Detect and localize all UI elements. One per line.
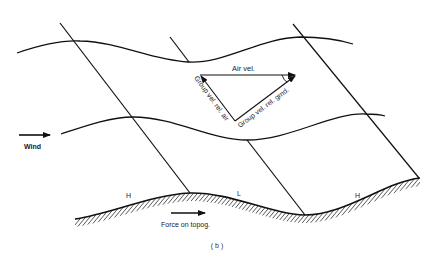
group-vel-rel-ground-vector xyxy=(235,76,295,121)
upper-streamline xyxy=(17,37,353,62)
group-vel-rel-ground-label: Group vel. rel. grnd. xyxy=(236,86,290,130)
phase-line-3 xyxy=(293,24,419,178)
mountain-wave-diagram: Air vel. Group vel. rel. air Group vel. … xyxy=(0,0,436,266)
group-vel-rel-air-label: Group vel. rel. air xyxy=(192,74,230,123)
air-velocity-label: Air vel. xyxy=(232,64,255,73)
phase-line-2-upper xyxy=(170,37,189,62)
group-vel-rel-air-vector xyxy=(201,76,235,121)
high-label-right: H xyxy=(355,192,360,199)
wind-label: Wind xyxy=(24,143,41,150)
angle-arc xyxy=(282,75,287,82)
low-label-middle: L xyxy=(237,190,241,197)
figure-caption: (b) xyxy=(0,242,436,249)
high-label-left: H xyxy=(126,192,131,199)
force-on-topography-label: Force on topog. xyxy=(161,221,210,229)
phase-line-2-lower xyxy=(247,140,305,215)
